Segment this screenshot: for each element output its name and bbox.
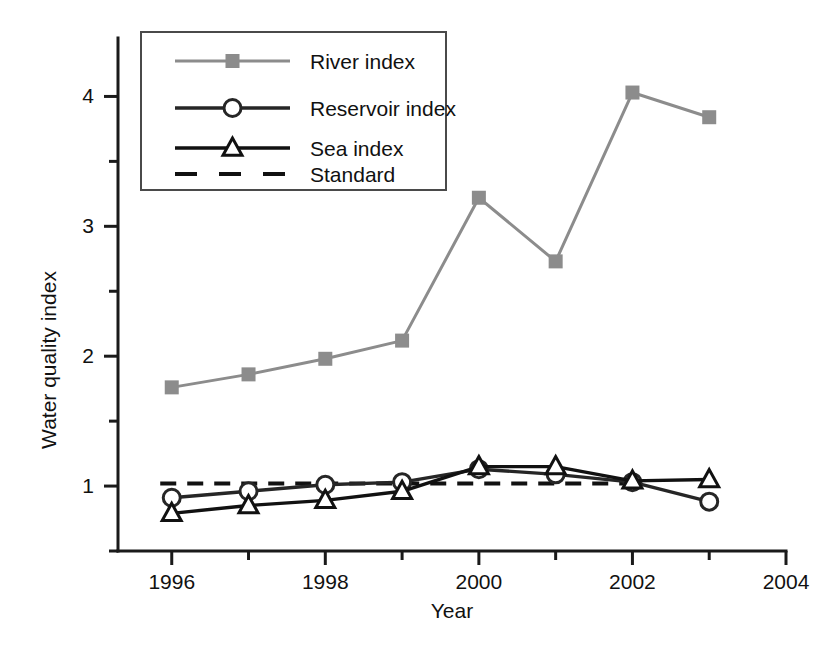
legend-entry-label: Standard [310,163,395,186]
x-axis: 19961998200020022004 Year [118,551,810,622]
chart-canvas: 1234 Water quality index 199619982000200… [0,0,840,647]
data-point-marker [701,493,718,510]
y-tick-label: 2 [82,344,94,367]
data-point-marker [625,86,639,100]
legend-entry-label: Reservoir index [310,97,456,120]
data-point-marker [472,191,486,205]
x-tick-label: 2004 [763,570,810,593]
water-quality-index-chart: 1234 Water quality index 199619982000200… [0,0,840,647]
x-tick-label: 1996 [148,570,195,593]
x-tick-label: 1998 [302,570,349,593]
x-tick-label: 2002 [609,570,656,593]
x-axis-tick-labels: 19961998200020022004 [148,570,809,593]
x-tick-label: 2000 [456,570,503,593]
y-tick-label: 3 [82,214,94,237]
x-axis-major-ticks [172,551,786,565]
data-point-marker [242,367,256,381]
data-point-marker [549,254,563,268]
legend-entry-label: River index [310,50,416,73]
legend-entry-label: Sea index [310,137,404,160]
y-axis: 1234 Water quality index [37,38,118,551]
legend-swatch-marker [226,54,240,68]
x-axis-title: Year [431,599,473,622]
y-axis-tick-labels: 1234 [82,84,94,497]
y-tick-label: 4 [82,84,94,107]
y-tick-label: 1 [82,474,94,497]
y-axis-title: Water quality index [37,271,60,449]
data-point-marker [702,110,716,124]
legend: River indexReservoir indexSea indexStand… [141,32,456,190]
data-point-marker [318,352,332,366]
data-point-marker [165,380,179,394]
legend-swatch-marker [224,100,241,117]
data-point-marker [395,334,409,348]
